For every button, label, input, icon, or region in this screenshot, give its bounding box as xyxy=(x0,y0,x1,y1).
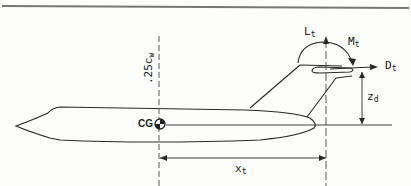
xt-arrow-right xyxy=(319,155,326,161)
xt-arrow-left xyxy=(160,155,167,161)
lift-tail-label: Lt xyxy=(304,26,315,39)
xt-label: xt xyxy=(235,163,246,176)
quarter-chord-label: .25cw xyxy=(143,53,156,84)
moment-tail-label: Mt xyxy=(348,36,359,49)
moment-arc xyxy=(298,42,352,63)
fin-top-edge xyxy=(300,65,342,66)
zd-label: zd xyxy=(367,91,378,104)
drag-tail-label: Dt xyxy=(385,60,396,73)
zd-arrow-bottom xyxy=(359,118,365,124)
fin-trailing-edge xyxy=(307,78,336,117)
fuselage-outline xyxy=(16,107,315,142)
fin-trailing-top xyxy=(336,76,352,78)
cg-label: CG xyxy=(138,119,153,129)
cg-symbol xyxy=(155,119,165,129)
fin-leading-edge xyxy=(250,65,300,108)
zd-arrow-top xyxy=(359,72,365,78)
drag-arrowhead xyxy=(370,64,378,70)
top-rule xyxy=(2,6,409,8)
diagram-drawing xyxy=(0,0,411,186)
moment-arrowhead xyxy=(348,58,356,66)
aircraft-diagram: Lt Mt Dt zd xt .25cw CG xyxy=(0,0,411,186)
